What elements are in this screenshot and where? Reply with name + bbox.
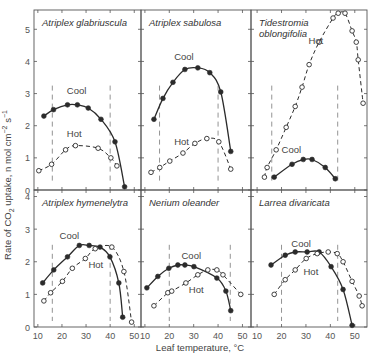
series-label-cool: Cool: [67, 85, 87, 96]
series-label-cool: Cool: [174, 51, 194, 62]
data-point-filled: [87, 243, 92, 248]
data-point-filled: [214, 276, 219, 281]
x-tick-label: 10: [33, 331, 43, 341]
panel-title: Atriplex hymenelytra: [41, 197, 128, 208]
data-point-filled: [175, 263, 180, 268]
panel-atriplex-sabulosa: Atriplex sabulosaCoolHot: [141, 10, 251, 190]
data-point-open: [272, 292, 277, 297]
series-label-hot: Hot: [308, 35, 323, 46]
data-point-filled: [283, 253, 288, 258]
data-point-filled: [323, 165, 328, 170]
y-tick-label: 3: [25, 225, 30, 235]
data-point-open: [129, 320, 134, 325]
data-point-open: [96, 146, 101, 151]
data-point-open: [42, 299, 47, 304]
panel-grid: 012345Atriplex glabriusculaCoolHotAtripl…: [25, 10, 367, 341]
data-point-open: [228, 167, 233, 172]
data-point-open: [48, 290, 53, 295]
panel-nerium-oleander: 1020304050Nerium oleanderCoolHot: [140, 190, 251, 341]
y-tick-label: 4: [25, 192, 30, 202]
panel-title: Nerium oleander: [149, 197, 220, 208]
panel-title: oblongifolia: [259, 28, 307, 39]
x-tick-label: 40: [325, 331, 335, 341]
series-label-cool: Cool: [60, 230, 80, 241]
data-point-filled: [51, 107, 56, 112]
data-point-open: [221, 273, 226, 278]
data-point-filled: [161, 96, 166, 101]
x-tick-label: 40: [105, 331, 115, 341]
y-tick-label: 0: [25, 323, 30, 333]
data-point-open: [356, 58, 361, 63]
data-point-open: [149, 170, 154, 175]
x-tick-label: 10: [140, 331, 150, 341]
data-point-filled: [183, 263, 188, 268]
data-point-open: [70, 266, 75, 271]
data-point-open: [63, 148, 68, 153]
data-point-filled: [41, 114, 46, 119]
data-point-open: [354, 40, 359, 45]
data-point-filled: [166, 266, 171, 271]
data-point-open: [109, 156, 114, 161]
x-tick-label: 30: [189, 331, 199, 341]
data-point-open: [326, 250, 331, 255]
data-point-filled: [120, 315, 125, 320]
data-point-filled: [77, 243, 82, 248]
x-tick-label: 20: [277, 331, 287, 341]
data-point-open: [341, 259, 346, 264]
chart-figure: 012345Atriplex glabriusculaCoolHotAtripl…: [0, 0, 375, 360]
series-label-cool: Cool: [282, 144, 302, 155]
data-point-filled: [65, 254, 70, 259]
series-line-cool: [154, 68, 231, 152]
data-point-filled: [301, 157, 306, 162]
x-tick-label: 20: [164, 331, 174, 341]
series-label-cool: Cool: [291, 238, 311, 249]
data-point-filled: [155, 274, 160, 279]
data-point-open: [350, 29, 355, 34]
data-point-open: [343, 11, 348, 16]
data-point-open: [37, 168, 42, 173]
x-tick-label: 40: [213, 331, 223, 341]
data-point-filled: [171, 80, 176, 85]
data-point-open: [49, 162, 54, 167]
panel-frame: [141, 10, 251, 190]
data-point-filled: [329, 264, 334, 269]
data-point-open: [122, 269, 127, 274]
series-label-hot: Hot: [88, 259, 103, 270]
x-tick-label: 50: [129, 331, 139, 341]
y-tick-label: 1: [25, 153, 30, 163]
panel-title: Atriplex sabulosa: [148, 17, 221, 28]
data-point-open: [193, 141, 198, 146]
data-point-open: [265, 165, 270, 170]
data-point-filled: [122, 184, 127, 189]
data-point-open: [152, 303, 157, 308]
data-point-open: [205, 136, 210, 141]
data-point-open: [304, 256, 309, 261]
data-point-filled: [113, 139, 118, 144]
data-point-filled: [192, 264, 197, 269]
data-point-open: [181, 151, 186, 156]
data-point-filled: [272, 175, 277, 180]
data-point-filled: [51, 268, 56, 273]
x-tick-label: 30: [81, 331, 91, 341]
data-point-filled: [116, 281, 121, 286]
data-point-filled: [350, 323, 355, 328]
series-label-hot: Hot: [304, 266, 319, 277]
y-tick-label: 5: [25, 25, 30, 35]
data-point-open: [262, 175, 267, 180]
y-tick-label: 3: [25, 89, 30, 99]
data-point-filled: [305, 250, 310, 255]
data-point-filled: [207, 70, 212, 75]
series-label-hot: Hot: [67, 128, 82, 139]
data-point-filled: [269, 263, 274, 268]
data-point-open: [215, 268, 220, 273]
data-point-open: [73, 143, 78, 148]
x-tick-label: 10: [252, 331, 262, 341]
data-point-open: [361, 101, 366, 106]
data-point-open: [315, 251, 320, 256]
panel-larrea-divaricata: 1020304050Larrea divaricataCoolHot: [251, 190, 367, 341]
x-tick-label: 50: [237, 331, 247, 341]
data-point-filled: [108, 254, 113, 259]
data-point-open: [335, 251, 340, 256]
data-point-open: [307, 62, 312, 67]
x-tick-label: 30: [301, 331, 311, 341]
